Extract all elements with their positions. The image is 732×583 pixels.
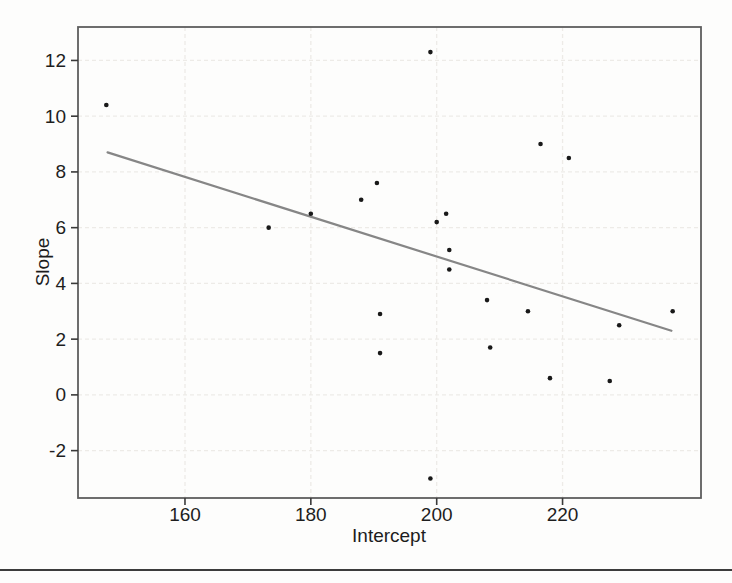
x-axis-title: Intercept [352, 525, 426, 547]
y-axis-title: Slope [32, 238, 54, 287]
data-point [378, 351, 383, 356]
data-point [526, 309, 531, 314]
data-point [434, 220, 439, 225]
data-point [548, 376, 553, 381]
data-point [309, 211, 314, 216]
data-point [447, 267, 452, 272]
data-point [567, 156, 572, 161]
figure-page: 160180200220-2024681012 Intercept Slope [0, 0, 732, 583]
data-point [428, 476, 433, 481]
y-tick-label: 2 [55, 329, 66, 350]
data-point [378, 312, 383, 317]
plot-border [78, 27, 701, 498]
data-point [447, 248, 452, 253]
y-tick-label: 6 [55, 217, 66, 238]
data-point [444, 211, 449, 216]
data-point [359, 197, 364, 202]
data-point [617, 323, 622, 328]
x-tick-label: 220 [547, 504, 579, 525]
y-tick-label: 12 [45, 50, 66, 71]
data-point [485, 298, 490, 303]
data-point [670, 309, 675, 314]
data-point [375, 181, 380, 186]
y-tick-label: 10 [45, 106, 66, 127]
x-tick-label: 200 [421, 504, 453, 525]
y-tick-label: 0 [55, 384, 66, 405]
data-point [428, 50, 433, 55]
x-tick-label: 180 [295, 504, 327, 525]
data-point [488, 345, 493, 350]
trend-line [108, 152, 672, 330]
y-tick-label: -2 [49, 440, 66, 461]
data-point [266, 225, 271, 230]
data-point [104, 103, 109, 108]
data-point [607, 379, 612, 384]
page-rule [0, 569, 732, 571]
y-tick-label: 4 [55, 273, 66, 294]
x-tick-label: 160 [169, 504, 201, 525]
y-tick-label: 8 [55, 161, 66, 182]
data-point [538, 142, 543, 147]
scatter-plot: 160180200220-2024681012 [0, 0, 732, 583]
